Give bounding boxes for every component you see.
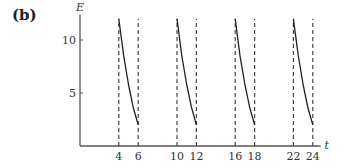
x-tick-label: 22 [286,150,300,163]
x-tick-label: 6 [135,150,142,163]
x-tick-label: 18 [248,150,262,163]
y-tick-label: 5 [69,87,76,100]
energy-decay-curve [235,19,254,125]
x-tick-label: 24 [306,150,320,163]
x-axis-label: t [325,139,330,152]
y-tick-label: 10 [62,34,76,47]
energy-time-plot: Et51046101216182224 [0,0,345,168]
energy-decay-curve [119,19,138,125]
energy-decay-curve [293,19,312,125]
x-tick-label: 4 [115,150,122,163]
x-tick-label: 10 [170,150,184,163]
energy-decay-curve [177,19,196,125]
y-axis-label: E [75,1,84,14]
x-tick-label: 12 [189,150,203,163]
x-tick-label: 16 [228,150,242,163]
